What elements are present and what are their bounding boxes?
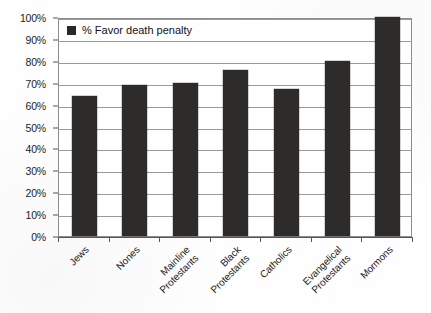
bar-slot [312,19,363,236]
legend-label: % Favor death penalty [82,24,192,36]
y-axis-tick-label: 90% [26,34,46,46]
y-axis-labels: 0%10%20%30%40%50%60%70%80%90%100% [0,18,54,237]
bar [72,96,97,236]
bar-slot [362,19,413,236]
bar-slot [211,19,262,236]
bar-slot [59,19,110,236]
y-axis-tick-label: 40% [26,143,46,155]
bar [173,83,198,236]
y-axis-tick-label: 50% [26,122,46,134]
bar [325,61,350,236]
y-axis-tick-label: 60% [26,100,46,112]
y-axis-tick-label: 80% [26,56,46,68]
bar [274,89,299,236]
bar-slot [160,19,211,236]
y-axis-tick-label: 20% [26,187,46,199]
bar [375,17,400,236]
plot-area [58,18,412,237]
x-axis-labels: JewsNonesMainlineProtestantsBlackProtest… [0,240,431,313]
bar-slot [261,19,312,236]
bar [223,70,248,236]
x-axis-line [58,237,412,238]
bar-slot [110,19,161,236]
y-axis-tick-label: 100% [20,12,46,24]
bar-chart: 0%10%20%30%40%50%60%70%80%90%100% JewsNo… [0,0,431,313]
bars-layer [59,19,411,236]
chart-legend: % Favor death penalty [64,22,198,38]
y-axis-tick-label: 10% [26,209,46,221]
legend-swatch-icon [67,26,76,35]
y-axis-tick-label: 30% [26,165,46,177]
bar [122,85,147,236]
y-axis-tick-label: 70% [26,78,46,90]
